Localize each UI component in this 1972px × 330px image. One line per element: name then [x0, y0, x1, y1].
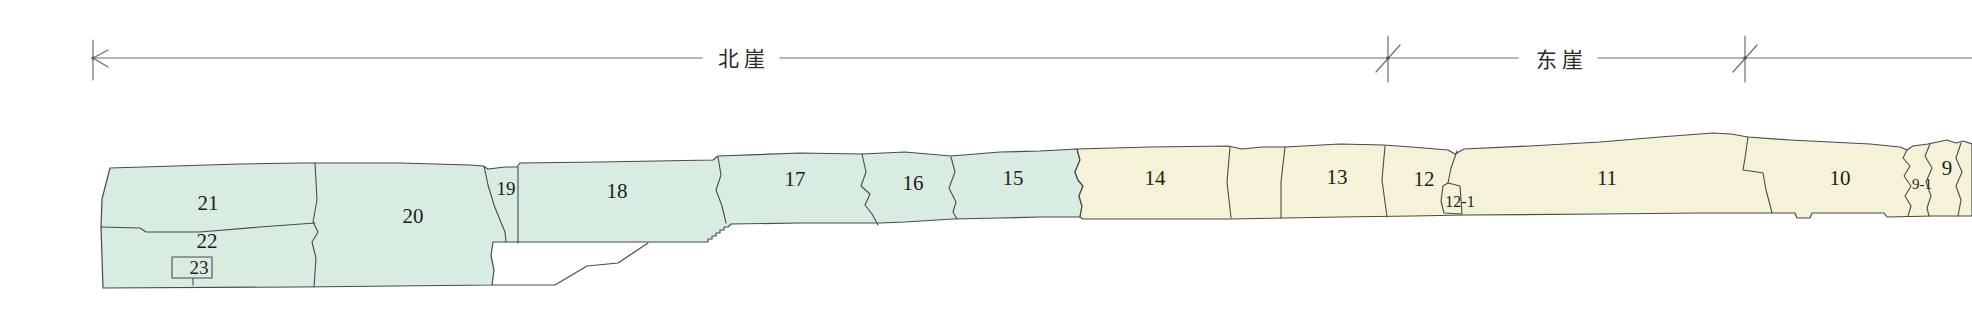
section-label-23: 23 — [190, 257, 209, 278]
section-label-9-1: 9-1 — [1912, 176, 1932, 192]
north-cliff-label: 北崖 — [718, 47, 770, 71]
section-label-19: 19 — [497, 178, 516, 199]
section-label-17: 17 — [785, 167, 806, 191]
section-label-20: 20 — [403, 204, 424, 228]
grotto-elevation-figure: 北崖 东崖 — [0, 0, 1972, 330]
section-label-16: 16 — [903, 171, 924, 195]
east-cliff-label: 东崖 — [1536, 48, 1588, 72]
section-label-21: 21 — [198, 191, 219, 215]
section-label-14: 14 — [1145, 166, 1167, 190]
north-cliff-region — [101, 149, 1083, 288]
dimension-tick-middle-icon — [1376, 36, 1400, 82]
section-label-18: 18 — [607, 179, 628, 203]
elevation-drawing-canvas: 北崖 东崖 — [0, 0, 1972, 330]
section-label-22: 22 — [197, 229, 218, 253]
section-label-12: 12 — [1414, 167, 1435, 191]
section-label-15: 15 — [1003, 166, 1024, 190]
dimension-arrow-left-icon — [91, 40, 108, 80]
cliff-body — [101, 133, 1972, 288]
section-label-10: 10 — [1830, 166, 1851, 190]
dimension-line-group: 北崖 东崖 — [91, 36, 1972, 82]
section-label-9: 9 — [1942, 156, 1953, 180]
dimension-tick-right-icon — [1733, 36, 1757, 82]
section-label-13: 13 — [1327, 165, 1348, 189]
section-label-12-1: 12-1 — [1445, 193, 1474, 210]
section-label-11: 11 — [1597, 166, 1617, 190]
lower-terrace-outline — [492, 243, 648, 285]
